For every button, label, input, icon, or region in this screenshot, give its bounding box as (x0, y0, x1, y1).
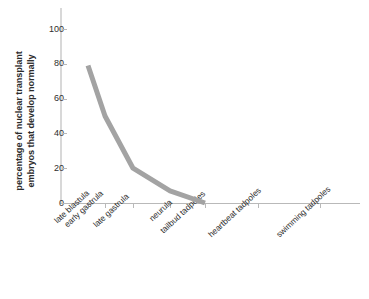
y-tick-label-0: 0 (44, 198, 64, 209)
y-axis-title-line-2: embryos that develop normally (25, 26, 37, 216)
data-line-series (0, 0, 369, 299)
x-tick-mark-late-gastrula (133, 203, 134, 208)
series-polyline (88, 66, 205, 204)
y-axis-title-line-1: percentage of nuclear transplant (13, 26, 25, 216)
y-axis-title: percentage of nuclear transplant embryos… (13, 26, 45, 216)
x-tick-mark-heartbeat-tadpoles (258, 203, 259, 208)
chart-figure: percentage of nuclear transplant embryos… (0, 0, 369, 299)
y-tick-mark-20 (62, 168, 67, 169)
x-tick-mark-tailbud-tadpoles (205, 203, 206, 208)
y-tick-mark-100 (62, 29, 67, 30)
y-axis-spine (60, 8, 62, 204)
x-tick-mark-swimming-tadpoles (320, 203, 321, 208)
x-tick-label-heartbeat-tadpoles: heartbeat tadpoles (206, 185, 263, 239)
y-tick-label-60: 60 (44, 93, 64, 104)
y-tick-label-20: 20 (44, 163, 64, 174)
y-tick-mark-80 (62, 64, 67, 65)
y-tick-label-40: 40 (44, 128, 64, 139)
y-tick-mark-40 (62, 133, 67, 134)
y-tick-mark-60 (62, 99, 67, 100)
y-tick-label-100: 100 (44, 24, 64, 35)
x-tick-label-swimming-tadpoles: swimming tadpoles (274, 184, 332, 239)
y-tick-label-80: 80 (44, 58, 64, 69)
